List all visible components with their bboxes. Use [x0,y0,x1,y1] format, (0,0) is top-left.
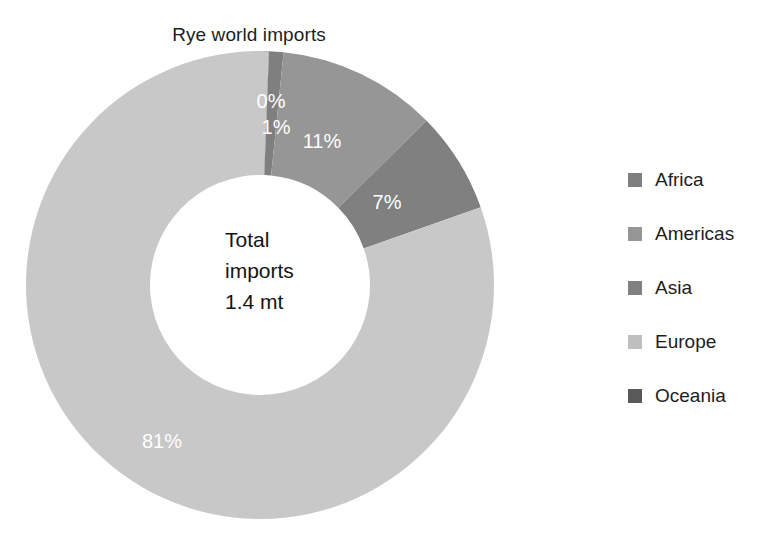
legend-swatch-icon-africa [628,173,642,187]
legend-swatch-icon-asia [628,281,642,295]
legend-item-oceania[interactable]: Oceania [628,384,768,407]
donut-svg: 0% 1% 11% 7% 81% Total imports 1.4 mt [25,50,495,520]
legend-item-asia[interactable]: Asia [628,276,768,299]
chart-title: Rye world imports [0,24,636,46]
donut-chart-figure: Rye world imports 0% 1% 11% 7% 81% Total… [0,0,774,550]
legend-swatch-icon-europe [628,335,642,349]
donut-slices [26,51,494,519]
legend-label-americas: Americas [655,224,734,243]
legend-item-europe[interactable]: Europe [628,330,768,353]
legend-swatch-icon-oceania [628,389,642,403]
legend-item-africa[interactable]: Africa [628,168,768,191]
center-annotation-line-3: 1.4 mt [225,290,284,313]
legend-label-asia: Asia [655,278,692,297]
donut-plot-area: 0% 1% 11% 7% 81% Total imports 1.4 mt [25,50,495,520]
center-annotation-line-2: imports [225,259,294,282]
chart-legend: Africa Americas Asia Europe Oceania [628,168,768,407]
legend-label-africa: Africa [655,170,704,189]
slice-label-asia: 7% [373,191,402,213]
legend-swatch-icon-americas [628,227,642,241]
slice-label-oceania: 0% [257,90,286,112]
center-annotation-line-1: Total [225,228,269,251]
legend-item-americas[interactable]: Americas [628,222,768,245]
legend-label-europe: Europe [655,332,716,351]
slice-label-americas: 11% [303,130,342,152]
center-annotation: Total imports 1.4 mt [225,228,294,313]
legend-label-oceania: Oceania [655,386,726,405]
slice-label-africa: 1% [262,116,291,138]
slice-label-europe: 81% [142,430,182,452]
